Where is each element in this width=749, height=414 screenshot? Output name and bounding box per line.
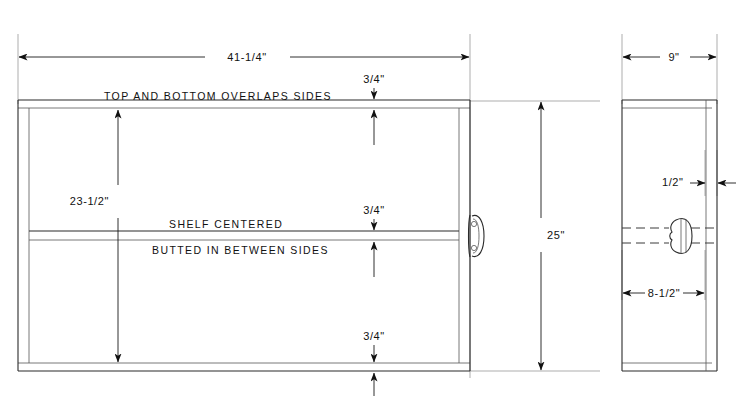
technical-drawing-sheet: 41-1/4" 9" xyxy=(0,0,749,414)
dim-side-depth-label: 9" xyxy=(668,51,679,63)
note-shelf-centered: SHELF CENTERED xyxy=(169,218,283,230)
dim-overall-width-label: 41-1/4" xyxy=(227,51,266,63)
dim-back-panel-thickness-label: 1/2" xyxy=(662,176,684,188)
dimension-overall-width: 41-1/4" xyxy=(19,51,469,63)
dimension-interior-height: 23-1/2" xyxy=(70,110,118,362)
dimension-overall-height: 25" xyxy=(541,102,565,370)
front-elevation-view xyxy=(18,100,470,371)
dimension-shelf-thickness: 3/4" xyxy=(363,204,385,277)
dimension-top-thickness: 3/4" xyxy=(363,73,385,145)
front-view-handle xyxy=(469,215,485,257)
dim-overall-height-label: 25" xyxy=(547,229,565,241)
dimension-back-panel-thickness: 1/2" xyxy=(662,176,736,188)
dimension-side-depth: 9" xyxy=(623,51,716,63)
dim-interior-height-label: 23-1/2" xyxy=(70,195,109,207)
drawing-canvas: 41-1/4" 9" xyxy=(0,0,749,414)
side-view-handle-detail xyxy=(622,218,717,254)
dim-handle-offset-label: 8-1/2" xyxy=(648,287,681,299)
dim-top-thickness-label: 3/4" xyxy=(363,73,385,85)
dim-shelf-thickness-label: 3/4" xyxy=(363,204,385,216)
dimension-handle-offset: 8-1/2" xyxy=(623,287,704,299)
dim-bottom-thickness-label: 3/4" xyxy=(363,330,385,342)
note-butted-between-sides: BUTTED IN BETWEEN SIDES xyxy=(152,244,329,256)
note-top-bottom-overlaps: TOP AND BOTTOM OVERLAPS SIDES xyxy=(104,90,332,102)
